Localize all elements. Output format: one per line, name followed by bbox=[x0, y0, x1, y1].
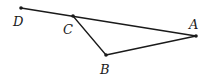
point-A bbox=[194, 34, 198, 38]
segment-CB bbox=[73, 16, 106, 55]
segment-BA bbox=[106, 36, 196, 55]
label-B: B bbox=[99, 62, 110, 77]
geometry-diagram: D C A B bbox=[0, 0, 216, 78]
point-D bbox=[19, 6, 23, 10]
segment-DA bbox=[21, 8, 196, 36]
label-D: D bbox=[12, 14, 24, 29]
point-B bbox=[104, 53, 108, 57]
label-C: C bbox=[63, 22, 73, 37]
label-A: A bbox=[188, 17, 198, 32]
point-C bbox=[71, 14, 75, 18]
